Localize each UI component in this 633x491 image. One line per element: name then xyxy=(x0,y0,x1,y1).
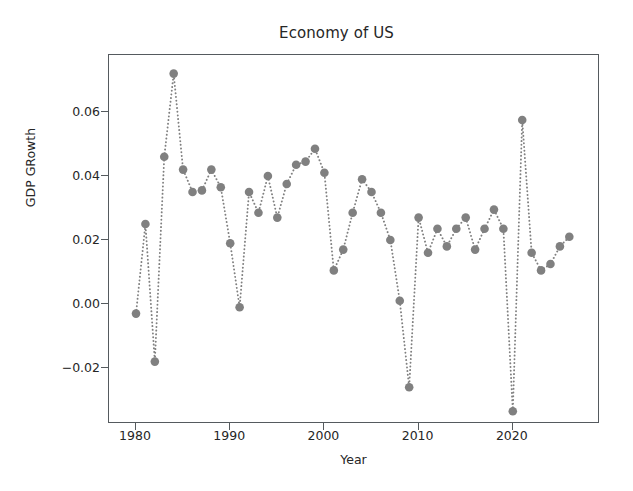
data-point-marker xyxy=(151,357,160,366)
chart-figure: Economy of US −0.020.000.020.040.06 1980… xyxy=(0,0,633,491)
x-axis-tick-mark xyxy=(135,423,136,430)
x-axis-tick-label: 2000 xyxy=(307,428,339,443)
data-point-marker xyxy=(518,116,527,125)
data-point-marker xyxy=(461,213,470,222)
data-point-marker xyxy=(490,205,499,214)
data-point-marker xyxy=(367,188,376,197)
data-point-marker xyxy=(395,297,404,306)
data-point-marker xyxy=(424,249,433,258)
x-axis-tick-mark xyxy=(512,423,513,430)
y-axis-tick-label: −0.02 xyxy=(62,360,100,375)
plot-area xyxy=(108,54,599,423)
data-point-marker xyxy=(141,220,150,229)
series-line-group xyxy=(136,74,569,412)
x-axis-label: Year xyxy=(108,452,599,467)
data-point-marker xyxy=(348,209,357,218)
y-axis-tick-mark xyxy=(101,111,108,112)
data-point-marker xyxy=(339,245,348,254)
data-point-marker xyxy=(301,157,310,166)
x-axis-tick-label: 1980 xyxy=(119,428,151,443)
y-axis-tick-mark xyxy=(101,175,108,176)
data-point-marker xyxy=(499,225,508,234)
data-point-marker xyxy=(226,239,235,248)
data-point-marker xyxy=(311,145,320,154)
series-marker-group xyxy=(132,69,574,415)
data-point-marker xyxy=(264,172,273,181)
y-axis-tick-mark xyxy=(101,367,108,368)
data-point-marker xyxy=(198,186,207,195)
x-axis-tick-mark xyxy=(229,423,230,430)
x-axis-tick-label: 2020 xyxy=(496,428,528,443)
data-point-marker xyxy=(292,161,301,170)
y-axis-tick-label: 0.04 xyxy=(72,168,100,183)
y-axis-tick-mark xyxy=(101,303,108,304)
series-line xyxy=(136,74,569,412)
y-axis-tick-mark xyxy=(101,239,108,240)
data-point-marker xyxy=(480,225,489,234)
data-point-marker xyxy=(254,209,263,218)
y-axis-label: GDP GRowth xyxy=(23,78,38,258)
data-point-marker xyxy=(443,242,452,251)
data-point-marker xyxy=(330,266,339,275)
y-axis-tick-label: 0.06 xyxy=(72,104,100,119)
y-axis-tick-label: 0.02 xyxy=(72,232,100,247)
data-point-marker xyxy=(414,213,423,222)
data-point-marker xyxy=(273,213,282,222)
data-point-marker xyxy=(377,209,386,218)
x-axis-tick-mark xyxy=(323,423,324,430)
chart-title-text: Economy of US xyxy=(279,24,394,42)
data-point-marker xyxy=(188,188,197,197)
data-point-marker xyxy=(509,407,518,416)
data-point-marker xyxy=(207,165,216,174)
data-point-marker xyxy=(452,225,461,234)
y-axis-tick-label: 0.00 xyxy=(72,296,100,311)
data-point-marker xyxy=(565,233,574,242)
data-point-marker xyxy=(132,309,141,318)
x-axis-tick-label: 2010 xyxy=(402,428,434,443)
data-point-marker xyxy=(169,69,178,78)
data-point-marker xyxy=(405,383,414,392)
data-point-marker xyxy=(245,188,254,197)
data-point-marker xyxy=(527,249,536,258)
data-point-marker xyxy=(556,242,565,251)
data-point-marker xyxy=(216,183,225,192)
data-point-marker xyxy=(546,260,555,269)
data-point-marker xyxy=(282,180,291,189)
x-axis-tick-mark xyxy=(418,423,419,430)
data-point-marker xyxy=(537,266,546,275)
data-point-marker xyxy=(471,245,480,254)
data-point-marker xyxy=(320,169,329,178)
y-axis-tick-labels: −0.020.000.020.040.06 xyxy=(0,0,100,491)
data-point-marker xyxy=(235,303,244,312)
plot-svg xyxy=(109,55,600,424)
x-axis-tick-label: 1990 xyxy=(213,428,245,443)
data-point-marker xyxy=(386,236,395,245)
data-point-marker xyxy=(179,165,188,174)
data-point-marker xyxy=(433,225,442,234)
data-point-marker xyxy=(358,175,367,184)
data-point-marker xyxy=(160,153,169,162)
